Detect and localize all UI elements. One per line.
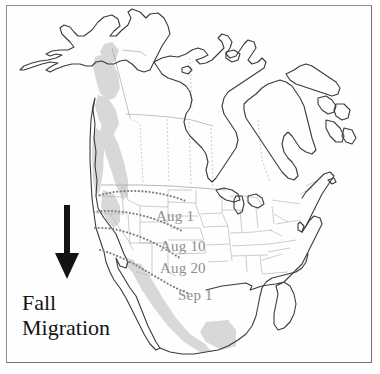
isochrone-label-aug-10: Aug 10 xyxy=(160,239,206,254)
legend-text: Fall Migration xyxy=(22,291,110,340)
legend-line-2: Migration xyxy=(22,316,110,341)
down-arrow-glyph xyxy=(48,203,88,281)
isochrone-label-sep-1: Sep 1 xyxy=(178,288,213,303)
migration-map-figure: Aug 1 Aug 10 Aug 20 Sep 1 Fall Migration xyxy=(0,0,380,374)
legend-line-1: Fall xyxy=(22,291,110,316)
isochrone-label-aug-20: Aug 20 xyxy=(160,261,206,276)
down-arrow-icon xyxy=(48,203,88,281)
isochrone-label-aug-1: Aug 1 xyxy=(156,209,194,224)
